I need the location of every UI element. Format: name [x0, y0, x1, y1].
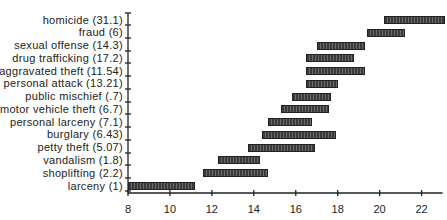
category-label: sexual offense (14.3): [14, 39, 123, 52]
range-bar: [292, 93, 332, 101]
category-label: vandalism (1.8): [43, 154, 123, 167]
range-bar: [306, 54, 354, 62]
range-bar: [262, 131, 335, 139]
range-bar-chart: homicide (31.1)fraud (6)sexual offense (…: [0, 0, 447, 220]
category-label: shoplifting (2.2): [43, 167, 123, 180]
x-tick-label: 14: [248, 203, 260, 215]
category-label: larceny (1): [68, 180, 123, 193]
x-tick-label: 20: [374, 203, 386, 215]
x-tick-label: 8: [125, 203, 131, 215]
x-tick-label: 12: [206, 203, 218, 215]
category-label: burglary (6.43): [47, 128, 123, 141]
x-tick-label: 10: [164, 203, 176, 215]
range-bar: [281, 105, 329, 113]
range-bar: [248, 144, 315, 152]
range-bar: [268, 118, 312, 126]
range-bar: [128, 182, 195, 190]
range-bar: [306, 80, 337, 88]
category-label: homicide (31.1): [43, 14, 123, 27]
x-tick-label: 16: [290, 203, 302, 215]
range-bar: [384, 16, 445, 24]
range-bar: [218, 156, 260, 164]
category-label: motor vehicle theft (6.7): [0, 103, 123, 116]
category-label: drug trafficking (17.2): [12, 52, 123, 65]
category-label: petty theft (5.07): [38, 141, 124, 154]
category-label: personal attack (13.21): [4, 77, 123, 90]
x-tick-label: 18: [332, 203, 344, 215]
category-label: personal larceny (7.1): [10, 116, 123, 129]
category-label: aggravated theft (11.54): [0, 65, 123, 78]
range-bar: [317, 42, 365, 50]
x-tick-label: 22: [415, 203, 427, 215]
range-bar: [306, 67, 365, 75]
range-bar: [203, 169, 268, 177]
category-label: public mischief (.7): [25, 90, 123, 103]
range-bar: [367, 29, 405, 37]
category-label: fraud (6): [79, 26, 123, 39]
